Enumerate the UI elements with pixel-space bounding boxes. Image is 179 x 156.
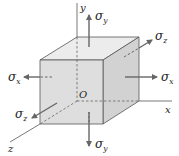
sigma-z-front-label: σz — [15, 107, 27, 123]
cube — [40, 37, 139, 124]
sigma-x-right-label: σx — [161, 70, 174, 86]
z-axis-label: z — [7, 143, 14, 154]
cube-front-face — [40, 60, 103, 124]
z-axis — [10, 124, 40, 142]
y-axis-label: y — [79, 2, 86, 13]
sigma-y-top-label: σy — [95, 9, 108, 25]
x-axis-label: x — [165, 104, 171, 115]
origin-label: O — [79, 89, 87, 100]
stress-element-diagram: y x z O σy σy σx σx σz σz — [0, 0, 179, 156]
sigma-z-back-arrow — [139, 40, 152, 48]
sigma-y-bottom-label: σy — [95, 137, 108, 153]
sigma-x-left-label: σx — [8, 70, 21, 86]
sigma-z-back-label: σz — [155, 29, 167, 45]
